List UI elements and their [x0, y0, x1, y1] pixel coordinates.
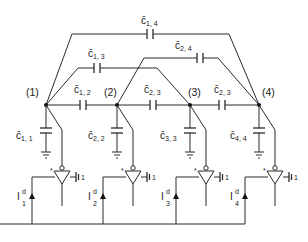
- node-label-3: (3): [188, 86, 201, 98]
- svg-text:d: d: [166, 188, 170, 195]
- coupling-capacitor-1-3: c̄1, 3: [46, 48, 190, 105]
- svg-text:*: *: [263, 167, 266, 174]
- current-source-4: I d 4: [230, 177, 268, 224]
- cell-3: c̄3, 3 1 * I d 3: [160, 105, 229, 224]
- circuit-diagram: c̄1, 4 c̄2, 4 c̄1, 3 c̄1, 2 c̄2, 3 c̄2: [0, 0, 308, 242]
- arrow-up-icon: [29, 193, 35, 199]
- ground-capacitor-1: c̄1, 1: [16, 105, 52, 158]
- svg-text:*: *: [121, 167, 124, 174]
- svg-text:1: 1: [294, 174, 298, 181]
- ground-icon: [41, 152, 51, 158]
- node-label-1: (1): [26, 86, 39, 98]
- svg-text:c̄2, 4: c̄2, 4: [175, 40, 192, 52]
- amplifier-3: 1 *: [190, 105, 229, 206]
- cell-1: c̄1, 1 1 * I d 1: [16, 105, 85, 224]
- arrow-up-icon: [242, 193, 248, 199]
- svg-text:c̄3, 3: c̄3, 3: [160, 130, 177, 142]
- cell-2: c̄2, 2 1 * I d 2: [88, 105, 156, 224]
- current-source-3: I d 3: [161, 177, 199, 224]
- svg-text:*: *: [50, 167, 53, 174]
- svg-text:I: I: [161, 191, 164, 202]
- svg-text:2: 2: [93, 200, 97, 207]
- coupling-capacitor-2-3: c̄2, 3: [117, 84, 190, 110]
- svg-text:c̄2, 2: c̄2, 2: [88, 130, 105, 142]
- svg-text:1: 1: [22, 200, 26, 207]
- svg-text:I: I: [88, 191, 91, 202]
- cell-4: c̄4, 4 1 * I d 4: [230, 105, 298, 224]
- svg-text:I: I: [17, 191, 20, 202]
- node-label-4: (4): [262, 86, 275, 98]
- svg-text:d: d: [93, 188, 97, 195]
- svg-text:*: *: [194, 167, 197, 174]
- svg-text:1: 1: [152, 174, 156, 181]
- svg-text:c̄1, 4: c̄1, 4: [141, 15, 158, 27]
- svg-text:d: d: [22, 188, 26, 195]
- ground-icon: [254, 152, 264, 158]
- amplifier-1: 1 *: [46, 105, 85, 206]
- svg-text:c̄1, 2: c̄1, 2: [74, 84, 91, 96]
- svg-text:d: d: [235, 188, 239, 195]
- ground-capacitor-3: c̄3, 3: [160, 105, 196, 158]
- current-source-2: I d 2: [88, 177, 126, 224]
- amplifier-2: 1 *: [117, 105, 156, 206]
- svg-text:1: 1: [225, 174, 229, 181]
- node-label-2: (2): [104, 86, 117, 98]
- ground-icon: [112, 152, 122, 158]
- svg-text:c̄4, 4: c̄4, 4: [230, 130, 247, 142]
- svg-text:3: 3: [166, 200, 170, 207]
- arrow-up-icon: [100, 193, 106, 199]
- current-source-1: I d 1: [17, 177, 55, 224]
- svg-text:I: I: [230, 191, 233, 202]
- svg-text:1: 1: [81, 174, 85, 181]
- svg-text:c̄1, 1: c̄1, 1: [16, 130, 33, 142]
- svg-text:c̄2, 3: c̄2, 3: [144, 84, 161, 96]
- ground-capacitor-2: c̄2, 2: [88, 105, 123, 158]
- svg-text:c̄2, 3: c̄2, 3: [214, 84, 231, 96]
- arrow-up-icon: [173, 193, 179, 199]
- svg-text:4: 4: [235, 200, 239, 207]
- amplifier-4: 1 *: [259, 105, 298, 206]
- ground-icon: [185, 152, 195, 158]
- ground-capacitor-4: c̄4, 4: [230, 105, 265, 158]
- svg-text:c̄1, 3: c̄1, 3: [88, 48, 105, 60]
